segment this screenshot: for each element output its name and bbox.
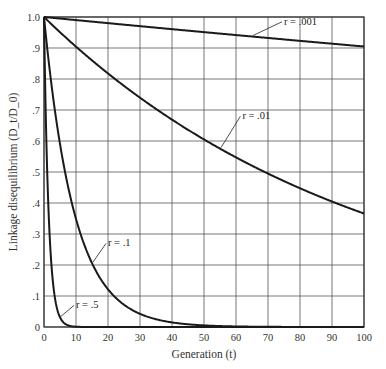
x-tick-label: 80	[295, 332, 306, 343]
y-tick-label: .7	[32, 105, 40, 116]
label-leader-line	[253, 22, 282, 36]
y-tick-label: .9	[32, 43, 40, 54]
y-tick-label: .3	[32, 229, 40, 240]
y-axis-label: Linkage disequilibrium (D_t/D_0)	[7, 93, 20, 252]
y-tick-label: .5	[32, 167, 40, 178]
curve-label: r = .5	[76, 299, 99, 310]
x-tick-label: 0	[41, 332, 46, 343]
curve-label: r = .001	[284, 16, 317, 27]
label-leader-line	[61, 305, 74, 316]
y-tick-label: .2	[32, 260, 40, 271]
x-tick-label: 10	[71, 332, 82, 343]
x-tick-label: 100	[356, 332, 372, 343]
x-tick-label: 70	[263, 332, 274, 343]
grid-lines	[44, 17, 364, 327]
y-tick-label: .4	[32, 198, 41, 209]
y-tick-label: .6	[32, 136, 40, 147]
y-tick-label: 1.0	[27, 12, 40, 23]
x-tick-label: 30	[135, 332, 146, 343]
label-leader-line	[221, 116, 240, 147]
y-axis-ticks: 0.1.2.3.4.5.6.7.8.91.0	[27, 12, 41, 333]
linkage-disequilibrium-chart: 0.1.2.3.4.5.6.7.8.91.0 01020304050607080…	[0, 0, 386, 369]
curve-label: r = .1	[108, 237, 131, 248]
y-tick-label: .1	[32, 291, 40, 302]
x-axis-label: Generation (t)	[172, 348, 237, 361]
y-tick-label: .8	[32, 74, 40, 85]
x-tick-label: 40	[167, 332, 178, 343]
x-tick-label: 60	[231, 332, 242, 343]
curve-label: r = .01	[242, 110, 270, 121]
y-tick-label: 0	[35, 322, 40, 333]
x-tick-label: 90	[327, 332, 338, 343]
label-leader-line	[93, 243, 106, 262]
curve-labels: r = .001r = .01r = .1r = .5	[61, 16, 317, 317]
x-tick-label: 50	[199, 332, 210, 343]
x-tick-label: 20	[103, 332, 114, 343]
x-axis-ticks: 0102030405060708090100	[41, 332, 372, 343]
